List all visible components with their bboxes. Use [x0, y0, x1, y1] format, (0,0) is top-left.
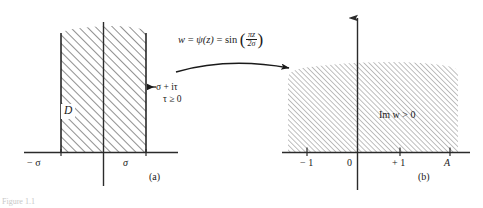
conformal-mapping-figure: D − σ σ σ + iτ τ ≥ 0 (a) w = ψ(z) = sin … [0, 0, 483, 208]
panel-b-upper-half-plane-region [288, 62, 458, 152]
formula-numerator: πz [246, 31, 258, 39]
region-label-im-w-positive: Im w > 0 [379, 110, 415, 120]
formula-fraction: πz2σ [246, 31, 258, 49]
formula-equals-2: = [216, 34, 222, 45]
boundary-note-sigma-plus-i-tau: σ + iτ [156, 83, 178, 93]
domain-label-D: D [61, 104, 75, 119]
figure-caption-fragment: Figure 1.1 [2, 198, 35, 206]
panel-b-tick-label-A: A [444, 158, 450, 168]
boundary-note-tau-nonnegative: τ ≥ 0 [163, 95, 182, 105]
panel-a-caption: (a) [149, 172, 160, 182]
panel-b-caption: (b) [418, 172, 430, 182]
panel-b-tick-label-plus-one: + 1 [392, 158, 405, 168]
formula-equals-1: = [188, 34, 194, 45]
panel-b-tick-label-zero: 0 [347, 158, 352, 168]
transform-formula: w = ψ(z) = sin (πz2σ) [178, 32, 263, 50]
formula-denominator: 2σ [246, 39, 258, 48]
panel-a-tick-label-plus-sigma: σ [123, 158, 128, 168]
panel-b-tick-label-minus-one: − 1 [300, 158, 313, 168]
transform-arrow [176, 63, 289, 72]
formula-lhs: w [178, 34, 185, 45]
formula-sin: sin [225, 34, 237, 45]
panel-a-tick-label-minus-sigma: − σ [27, 158, 41, 168]
formula-psi: ψ(z) [196, 34, 214, 45]
formula-paren-close: ) [257, 30, 263, 49]
